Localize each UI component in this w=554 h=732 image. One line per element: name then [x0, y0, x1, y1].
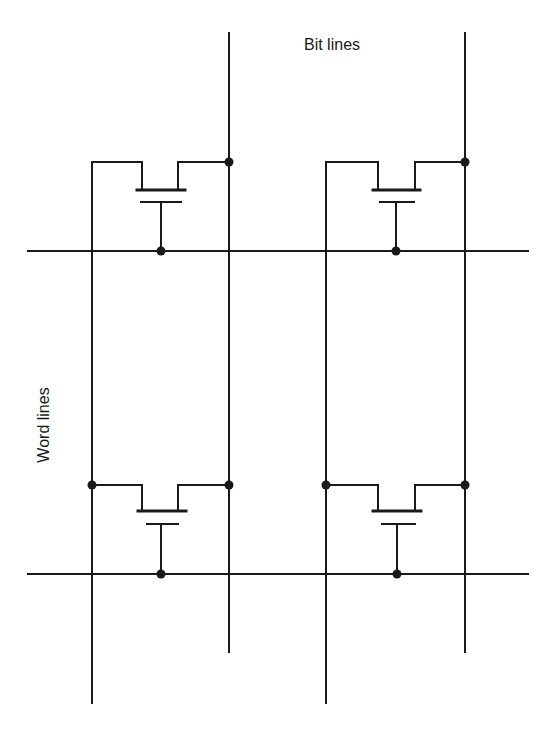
circuit-schematic [0, 0, 554, 732]
junction-dot [461, 158, 470, 167]
junction-dot [157, 570, 166, 579]
word-lines-label: Word lines [35, 387, 53, 462]
transistor-r1-c1 [92, 162, 229, 251]
memory-array-diagram: Bit lines Word lines [0, 0, 554, 732]
junction-dot [157, 247, 166, 256]
transistor-r2-c1 [92, 485, 229, 574]
bit-lines-label: Bit lines [304, 36, 360, 54]
junction-dot [392, 247, 401, 256]
junction-dot [461, 481, 470, 490]
junction-dot [88, 481, 97, 490]
junction-dots [88, 158, 470, 579]
junction-dot [322, 481, 331, 490]
junction-dot [225, 481, 234, 490]
transistor-r2-c2 [326, 485, 465, 574]
junction-dot [393, 570, 402, 579]
junction-dot [225, 158, 234, 167]
transistor-r1-c2 [326, 162, 465, 251]
